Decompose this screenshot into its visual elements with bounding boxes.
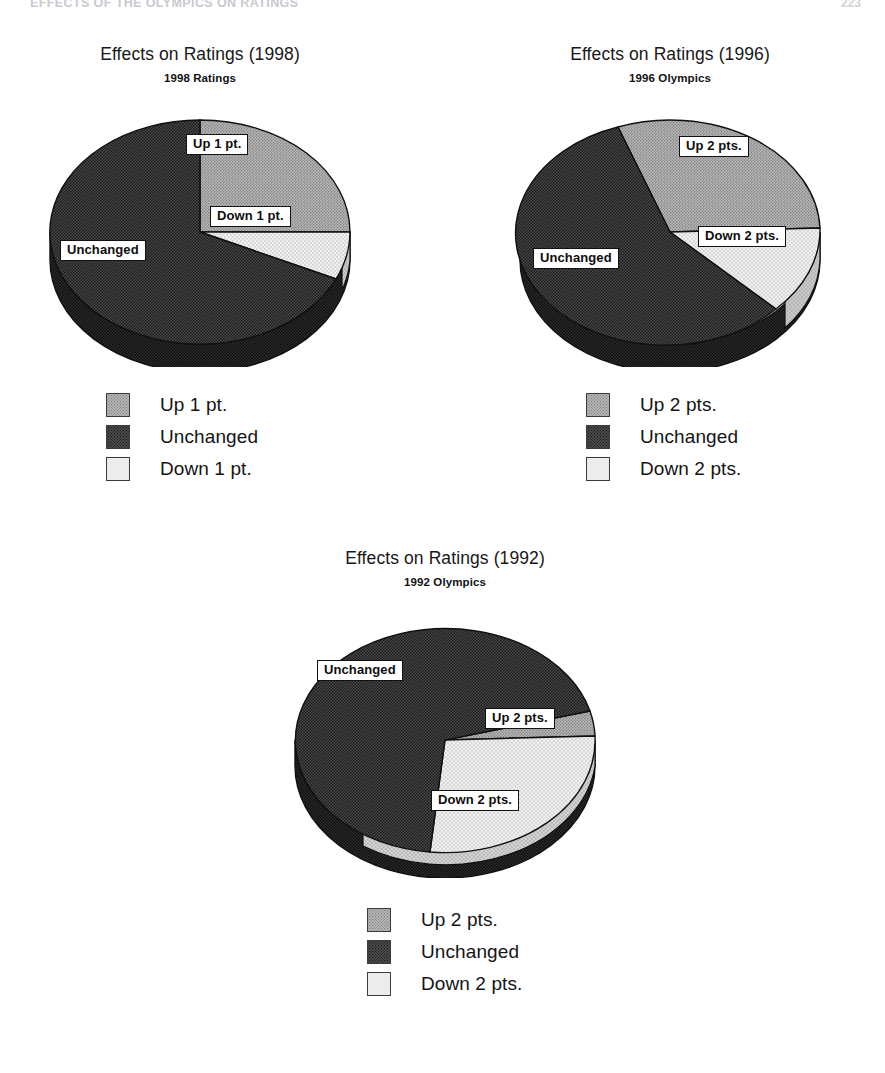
legend-label: Unchanged [421,941,519,963]
legend-label: Down 2 pts. [640,458,741,480]
chart-1992-label-down: Down 2 pts. [431,790,519,811]
legend-item: Down 1 pt. [106,453,258,485]
chart-1998-label-down: Down 1 pt. [210,206,291,227]
chart-1996-label-down: Down 2 pts. [698,226,786,247]
legend-label: Down 1 pt. [160,458,252,480]
page-running-header: EFFECTS OF THE OLYMPICS ON RATINGS 223 [0,0,885,14]
legend-label: Unchanged [160,426,258,448]
chart-1996-legend: Up 2 pts. Unchanged Down 2 pts. [586,389,741,485]
chart-1996-label-unchanged: Unchanged [533,248,619,269]
legend-swatch-up-icon [106,393,130,417]
legend-swatch-up-icon [586,393,610,417]
legend-item: Up 1 pt. [106,389,258,421]
legend-item: Down 2 pts. [367,968,522,1000]
chart-1996: Effects on Ratings (1996) 1996 Olympics [490,44,850,367]
chart-1996-pie: Up 2 pts. Down 2 pts. Unchanged [505,92,835,367]
legend-swatch-down-icon [586,457,610,481]
chart-1992-legend: Up 2 pts. Unchanged Down 2 pts. [367,904,522,1000]
legend-label: Down 2 pts. [421,973,522,995]
chart-1992-title: Effects on Ratings (1992) [265,548,625,569]
chart-1992: Effects on Ratings (1992) 1992 Olympics [265,548,625,878]
legend-swatch-up-icon [367,908,391,932]
chart-1992-label-unchanged: Unchanged [317,660,403,681]
chart-1992-pie: Unchanged Up 2 pts. Down 2 pts. [275,598,615,878]
legend-item: Up 2 pts. [367,904,522,936]
chart-1992-label-up: Up 2 pts. [485,708,555,729]
legend-swatch-unchanged-icon [106,425,130,449]
legend-item: Up 2 pts. [586,389,741,421]
legend-item: Unchanged [586,421,741,453]
chart-1996-title: Effects on Ratings (1996) [490,44,850,65]
chart-1998-legend: Up 1 pt. Unchanged Down 1 pt. [106,389,258,485]
legend-item: Down 2 pts. [586,453,741,485]
chart-1992-pie-svg [275,598,615,878]
chart-1998-pie: Up 1 pt. Down 1 pt. Unchanged [40,92,360,367]
legend-swatch-unchanged-icon [367,940,391,964]
chart-1992-subtitle: 1992 Olympics [265,576,625,588]
chart-1998-title: Effects on Ratings (1998) [20,44,380,65]
legend-item: Unchanged [106,421,258,453]
page-number: 223 [841,0,861,10]
legend-label: Up 2 pts. [640,394,717,416]
chart-1998: Effects on Ratings (1998) 1998 Ratings [20,44,380,367]
legend-swatch-down-icon [106,457,130,481]
chart-1996-subtitle: 1996 Olympics [490,72,850,84]
legend-item: Unchanged [367,936,522,968]
legend-swatch-down-icon [367,972,391,996]
chart-1998-subtitle: 1998 Ratings [20,72,380,84]
chart-1998-label-up: Up 1 pt. [186,134,248,155]
chart-1998-label-unchanged: Unchanged [60,240,146,261]
legend-label: Unchanged [640,426,738,448]
chart-1996-label-up: Up 2 pts. [679,136,749,157]
running-header-title: EFFECTS OF THE OLYMPICS ON RATINGS [30,0,298,10]
legend-label: Up 2 pts. [421,909,498,931]
legend-label: Up 1 pt. [160,394,227,416]
legend-swatch-unchanged-icon [586,425,610,449]
